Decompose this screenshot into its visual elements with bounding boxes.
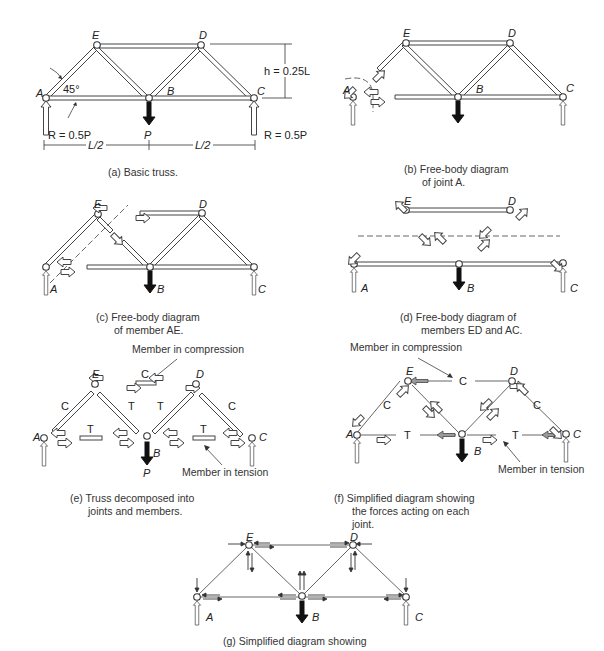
tension-pointer <box>505 444 520 462</box>
joint-d <box>198 42 205 49</box>
label-e: E <box>92 368 100 380</box>
caption-b-line1: (b) Free-body diagram <box>404 163 509 175</box>
label-d: D <box>508 195 516 207</box>
panel-e-decomposed-truss: Member in compression C C T T C T T <box>32 343 269 517</box>
label-e: E <box>246 531 254 543</box>
joint-c <box>403 594 410 601</box>
force-type-ab: T <box>87 423 94 435</box>
joint-c <box>563 431 570 438</box>
force-type-bc: T <box>512 429 519 441</box>
caption-c-line2: of member AE. <box>114 324 183 336</box>
caption-f-line2: the forces acting on each <box>352 505 469 517</box>
force-type-bc: T <box>200 423 207 435</box>
label-c: C <box>259 431 267 443</box>
label-a: A <box>345 428 353 440</box>
member-ab <box>80 436 102 440</box>
span-dimension <box>44 140 255 150</box>
force-type-eb: T <box>128 400 135 412</box>
joint-d <box>507 40 514 47</box>
reaction-arrow-a <box>353 439 360 463</box>
label-b: B <box>167 85 174 97</box>
label-d: D <box>196 368 204 380</box>
joint-b <box>459 431 466 438</box>
reaction-arrow-a <box>42 271 49 295</box>
caption-d-line2: members ED and AC. <box>421 324 523 336</box>
joint-e <box>405 378 412 385</box>
label-d: D <box>510 365 518 377</box>
caption-d-line1: (d) Free-body diagram of <box>400 311 516 323</box>
span-right-label: L/2 <box>195 139 210 151</box>
joint-c <box>560 94 567 101</box>
joint-c <box>251 264 258 271</box>
reaction-arrow-right <box>249 101 259 135</box>
reaction-arrow-c <box>250 271 257 295</box>
label-e: E <box>94 198 102 210</box>
force-type-ed: C <box>459 375 467 387</box>
force-type-ed: C <box>141 368 149 380</box>
joint-c <box>249 435 256 442</box>
label-e: E <box>403 27 411 39</box>
label-a: A <box>360 282 368 294</box>
label-c: C <box>257 85 265 97</box>
load-arrow-p <box>141 442 153 465</box>
label-a: A <box>205 611 213 623</box>
label-e: E <box>404 195 412 207</box>
reaction-arrow-c <box>248 442 255 466</box>
joint-a <box>194 594 201 601</box>
joint-d <box>193 381 200 388</box>
force-type-ab: T <box>404 429 411 441</box>
label-d: D <box>508 27 516 39</box>
tension-note: Member in tension <box>498 463 585 475</box>
label-c: C <box>573 428 581 440</box>
joint-e <box>403 40 410 47</box>
reaction-arrow-a <box>40 442 47 466</box>
load-arrow-b <box>452 101 464 123</box>
angle-label: 45° <box>63 83 80 95</box>
reaction-arrow-c <box>559 268 566 292</box>
joint-b <box>144 433 151 440</box>
force-type-ae: C <box>383 399 391 411</box>
caption-e-line2: joints and members. <box>87 505 183 517</box>
compression-note: Member in compression <box>350 341 462 353</box>
joint-b <box>147 264 154 271</box>
label-d: D <box>199 29 207 41</box>
joint-a <box>354 432 361 439</box>
span-left-label: L/2 <box>88 139 103 151</box>
caption-a: (a) Basic truss. <box>108 166 178 178</box>
label-a: A <box>342 84 350 96</box>
load-arrow-b <box>296 601 308 623</box>
label-a: A <box>35 87 43 99</box>
label-b: B <box>474 445 481 457</box>
load-label: P <box>144 129 152 141</box>
reaction-arrow-a <box>349 101 356 125</box>
joint-b <box>456 261 463 268</box>
force-type-dc: C <box>228 400 236 412</box>
joint-e <box>92 381 99 388</box>
label-a: A <box>49 283 57 295</box>
member-bd <box>152 392 194 434</box>
reaction-arrow-c <box>562 438 569 462</box>
reaction-arrow-c <box>402 601 409 625</box>
members-lines <box>197 545 406 597</box>
load-arrow-b <box>144 271 156 293</box>
force-type-ae: C <box>61 400 69 412</box>
joint-a <box>41 435 48 442</box>
caption-f-line3: joint. <box>351 518 374 530</box>
label-b: B <box>476 83 483 95</box>
panel-g-simplified-diagram: A E D B C (g) Simplified diagram showing <box>193 531 423 647</box>
joint-force-arrows <box>195 541 408 601</box>
label-c: C <box>258 283 266 295</box>
reaction-arrow-a <box>193 601 200 625</box>
label-c: C <box>570 282 578 294</box>
reaction-left-label: R = 0.5P <box>48 129 91 141</box>
joint-d <box>199 210 206 217</box>
tension-pointer <box>206 448 222 465</box>
force-type-bd: T <box>157 400 164 412</box>
joint-a <box>43 264 50 271</box>
label-e: E <box>406 365 414 377</box>
label-a: A <box>32 431 40 443</box>
caption-e-line1: (e) Truss decomposed into <box>70 492 194 504</box>
load-arrow-b <box>453 268 465 290</box>
truss-figure: A E D B C 45° R = 0.5P P R = 0.5P L/2 <box>0 0 604 651</box>
force-type-dc: C <box>533 399 541 411</box>
